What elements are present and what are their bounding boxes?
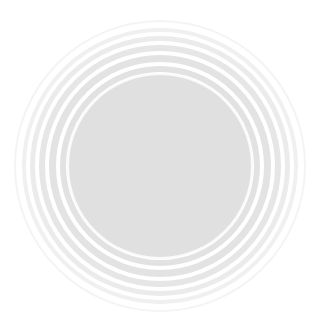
concentric-circles-graphic: [0, 0, 321, 333]
inner-disk: [69, 75, 251, 257]
